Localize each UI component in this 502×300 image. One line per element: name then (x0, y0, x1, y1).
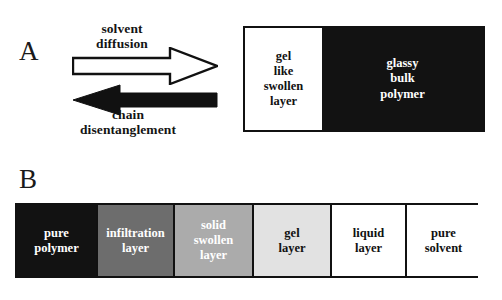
glassy-bulk-polymer: glassy bulk polymer (322, 28, 483, 130)
polymer-solvent-interface-box: gel like swollen layer glassy bulk polym… (243, 26, 485, 132)
panel-a-letter: A (19, 38, 39, 65)
liquid-layer: liquid layer (332, 205, 407, 276)
pure-solvent-layer: pure solvent (407, 205, 480, 276)
solvent-diffusion-arrow-icon (72, 47, 218, 85)
chain-disentanglement-label: chain disentanglement (42, 108, 214, 137)
arrow-right-outline-icon (72, 47, 218, 85)
solid-swollen-layer: solid swollen layer (175, 205, 254, 276)
panel-b-letter: B (19, 166, 37, 193)
infiltration-layer: infiltration layer (98, 205, 175, 276)
pure-polymer-layer: pure polymer (17, 205, 98, 276)
dissolution-layer-bar: pure polymer infiltration layer solid sw… (15, 203, 478, 278)
gel-layer: gel layer (254, 205, 332, 276)
gel-like-swollen-layer: gel like swollen layer (245, 28, 322, 130)
